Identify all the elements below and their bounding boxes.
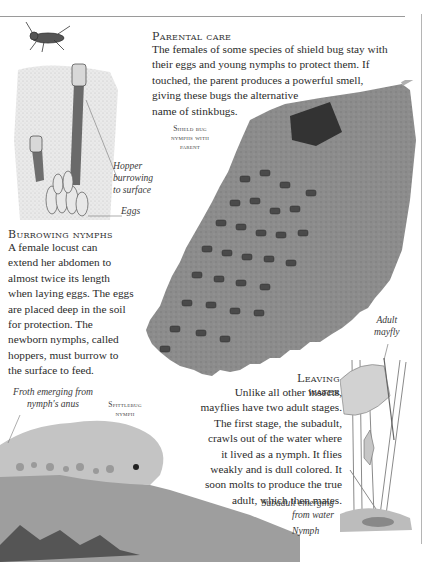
text-line: crawls out of the water where — [160, 431, 342, 446]
top-rule — [0, 16, 405, 17]
text-line: hoppers, must burrow to — [8, 348, 168, 363]
leaving-water-body: Unlike all other insects, mayflies have … — [160, 385, 342, 508]
text-line: when laying eggs. The eggs — [8, 286, 168, 301]
text-line: almost twice its length — [8, 271, 168, 286]
text-line: newborn nymphs, called — [8, 332, 168, 347]
nymph-caption: Nymph — [292, 525, 319, 537]
text-line: it lived as a nymph. It flies — [160, 447, 342, 462]
mayfly-illustration — [340, 330, 420, 545]
label-line: nymphs with — [160, 133, 220, 142]
text-line: A female locust can — [8, 240, 168, 255]
caption-line: from water — [246, 509, 334, 521]
caption-line: Subadult emerging — [246, 497, 334, 509]
locust-burrow-illustration — [10, 20, 125, 220]
label-line: Shield bug — [160, 124, 220, 133]
caption-line: Froth emerging from — [8, 386, 98, 398]
text-line: mayflies have two adult stages. — [160, 400, 342, 415]
text-line: are placed deep in the soil — [8, 302, 168, 317]
caption-line: mayfly — [374, 326, 400, 338]
text-line: The females of some species of shield bu… — [152, 42, 422, 57]
text-line: their eggs and young nymphs to protect t… — [152, 57, 422, 72]
caption-line: Adult — [374, 314, 400, 326]
text-line: soon molts to produce the true — [160, 477, 342, 492]
label-line: parent — [160, 142, 220, 151]
text-line: extend her abdomen to — [8, 255, 168, 270]
text-line: weakly and is dull colored. It — [160, 462, 342, 477]
text-line: for protection. The — [8, 317, 168, 332]
text-line: the surface to feed. — [8, 363, 168, 378]
shield-bug-label: Shield bug nymphs with parent — [160, 124, 220, 151]
text-line: Unlike all other insects, — [160, 385, 342, 400]
burrowing-nymphs-body: A female locust can extend her abdomen t… — [8, 240, 168, 379]
adult-mayfly-caption: Adult mayfly — [374, 314, 400, 338]
book-page: Hopper burrowing to surface Eggs Parenta… — [0, 0, 434, 562]
text-line: The first stage, the subadult, — [160, 416, 342, 431]
subadult-caption: Subadult emerging from water — [246, 497, 334, 521]
